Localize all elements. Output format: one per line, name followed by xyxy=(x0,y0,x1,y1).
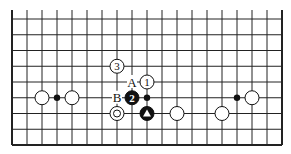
small-dot xyxy=(234,95,240,101)
black-stone xyxy=(140,107,154,121)
move-number: 1 xyxy=(144,76,150,88)
point-label-b: B xyxy=(113,90,122,105)
white-stone xyxy=(65,91,79,105)
small-dot xyxy=(144,95,150,101)
go-board-diagram: AB 312 xyxy=(0,0,291,154)
white-stone: 1 xyxy=(140,75,154,89)
white-stone xyxy=(215,107,229,121)
move-number: 3 xyxy=(114,60,120,72)
white-stone xyxy=(245,91,259,105)
black-stone: 2 xyxy=(125,91,139,105)
white-stone xyxy=(110,107,124,121)
small-dot xyxy=(54,95,60,101)
move-number: 2 xyxy=(129,92,135,104)
white-stone xyxy=(35,91,49,105)
white-stone xyxy=(170,107,184,121)
point-label-a: A xyxy=(127,75,137,90)
white-stone: 3 xyxy=(110,59,124,73)
